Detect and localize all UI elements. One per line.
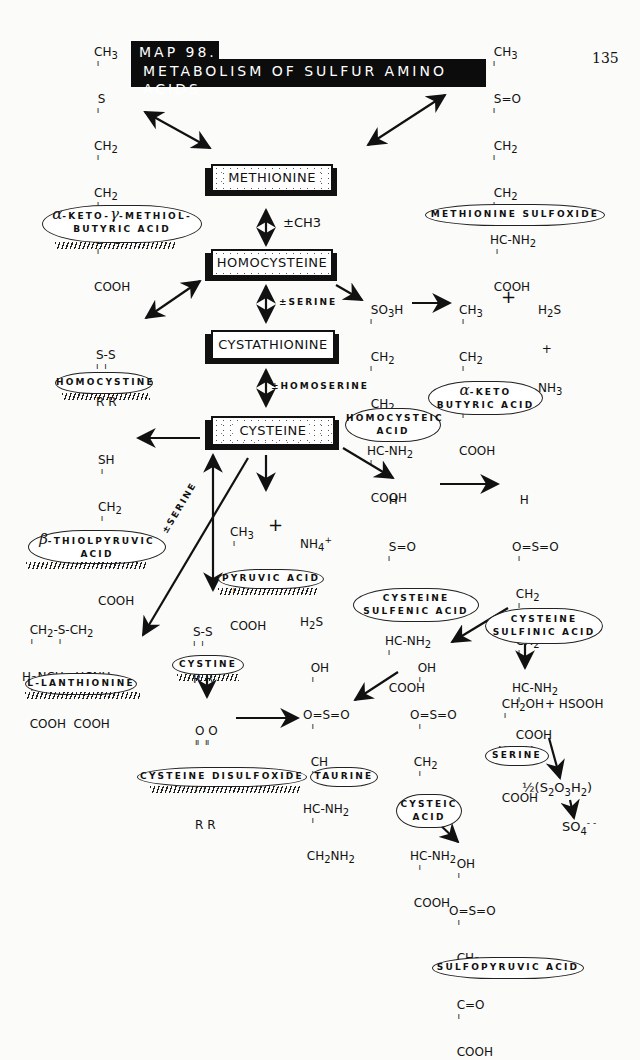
formula-h2s-nh3: H2S + NH3: [538, 278, 562, 408]
cloud-taurine[interactable]: TAURINE: [310, 767, 378, 787]
cloud-keto-methiol-butyric-acid[interactable]: α-KETO-γ-METHIOL- BUTYRIC ACID: [42, 205, 202, 243]
arrow-thiosulfate-sulfate: [570, 800, 574, 818]
cloud-pyruvic-acid[interactable]: PYRUVIC ACID: [218, 569, 324, 589]
formula-lanthionine: CH2-S-CH2 ı ı H2NCH HCNH2 ı ı COOH COOH: [22, 598, 117, 744]
compound-homocysteine[interactable]: HOMOCYSTEINE: [211, 249, 333, 277]
reaction-label-serine: ±SERINE: [279, 297, 337, 307]
reaction-label-serine-diagonal: ±SERINE: [160, 480, 199, 535]
hatch-thiolpyruvic: [26, 562, 146, 569]
cloud-thiolpyruvic-acid[interactable]: β-THIOLPYRUVIC ACID: [28, 530, 166, 564]
hatch-homocystine: [62, 393, 150, 400]
serine-byproduct-hsooh: + HSOOH: [545, 697, 603, 711]
formula-keto-butyric: CH3 ı CH2 ı C=O ı COOH: [459, 278, 495, 471]
formula-keto-methiol: CH3 ı S ı CH2 ı CH2 ı C=O ı COOH: [94, 20, 130, 307]
formula-sulfopyruvic: OH ı O=S=O ı CH2 ı C=O ı COOH: [449, 832, 496, 1060]
plus-sign-ketobutyric: +: [501, 286, 516, 307]
arrow-homocysteine-homocystine: [146, 281, 200, 318]
hatch-cystine: [177, 674, 239, 681]
map-number: MAP 98.: [131, 41, 219, 61]
cloud-homocysteic-acid[interactable]: HOMOCYSTEIC ACID: [345, 408, 441, 442]
map-title: METABOLISM OF SULFUR AMINO ACIDS: [131, 59, 486, 87]
cysteine-label: CYSTEINE: [237, 423, 310, 438]
plus-sign-pyruvic: +: [268, 514, 283, 535]
cloud-serine[interactable]: SERINE: [485, 746, 549, 766]
compound-cysteine[interactable]: CYSTEINE: [211, 416, 335, 446]
compound-methionine[interactable]: METHIONINE: [211, 164, 333, 192]
arrow-methionine-to-sulfoxide: [368, 95, 445, 145]
formula-thiolpyruvic: SH ı CH2 ı C=O ı COOH: [98, 428, 134, 621]
formula-methionine-sulfoxide: CH3 ı S=O ı CH2 ı CH2 ı HC-NH2 ı COOH: [490, 20, 536, 307]
arrow-methionine-to-keto-methiol: [145, 112, 210, 148]
cloud-methionine-sulfoxide[interactable]: METHIONINE SULFOXIDE: [425, 204, 605, 226]
cloud-keto-butyric-acid[interactable]: α-KETO BUTYRIC ACID: [428, 381, 543, 415]
cloud-homocystine[interactable]: HOMOCYSTINE: [55, 372, 153, 394]
thiosulfate: ½(S2O3H2): [522, 780, 592, 798]
compound-cystathionine[interactable]: CYSTATHIONINE: [211, 330, 335, 360]
cystathionine-label: CYSTATHIONINE: [215, 337, 331, 352]
cloud-cystine[interactable]: CYSTINE: [172, 655, 244, 675]
cloud-cysteic-acid[interactable]: CYSTEIC ACID: [396, 794, 462, 828]
hatch-disulfoxide: [150, 786, 300, 793]
homocysteine-label: HOMOCYSTEINE: [214, 255, 330, 270]
hatch-pyruvic: [218, 588, 318, 595]
formula-cystine: S-Sı ı R R: [193, 600, 214, 699]
sulfate: SO4- -: [562, 818, 596, 837]
methionine-label: METHIONINE: [225, 170, 319, 185]
hatch-lanthionine: [25, 692, 140, 699]
hatch-keto-methiol: [55, 242, 175, 249]
cloud-cysteine-sulfinic-acid[interactable]: CYSTEINE SULFINIC ACID: [485, 608, 603, 644]
page-number: 135: [592, 50, 619, 66]
cloud-sulfopyruvic-acid[interactable]: SULFOPYRUVIC ACID: [432, 957, 584, 979]
reaction-label-homoserine: ±HOMOSERINE: [271, 381, 369, 391]
reaction-label-methyl: ±CH3: [283, 215, 321, 230]
cloud-cysteine-sulfenic-acid[interactable]: CYSTEINE SULFENIC ACID: [353, 588, 479, 622]
cloud-cysteine-disulfoxide[interactable]: CYSTEINE DISULFOXIDE: [137, 767, 307, 787]
formula-taurine: OH ı O=S=O ı CH ı HC-NH2 ı CH2NH2: [303, 636, 355, 876]
arrow-homocysteine-homocysteic: [336, 285, 362, 300]
